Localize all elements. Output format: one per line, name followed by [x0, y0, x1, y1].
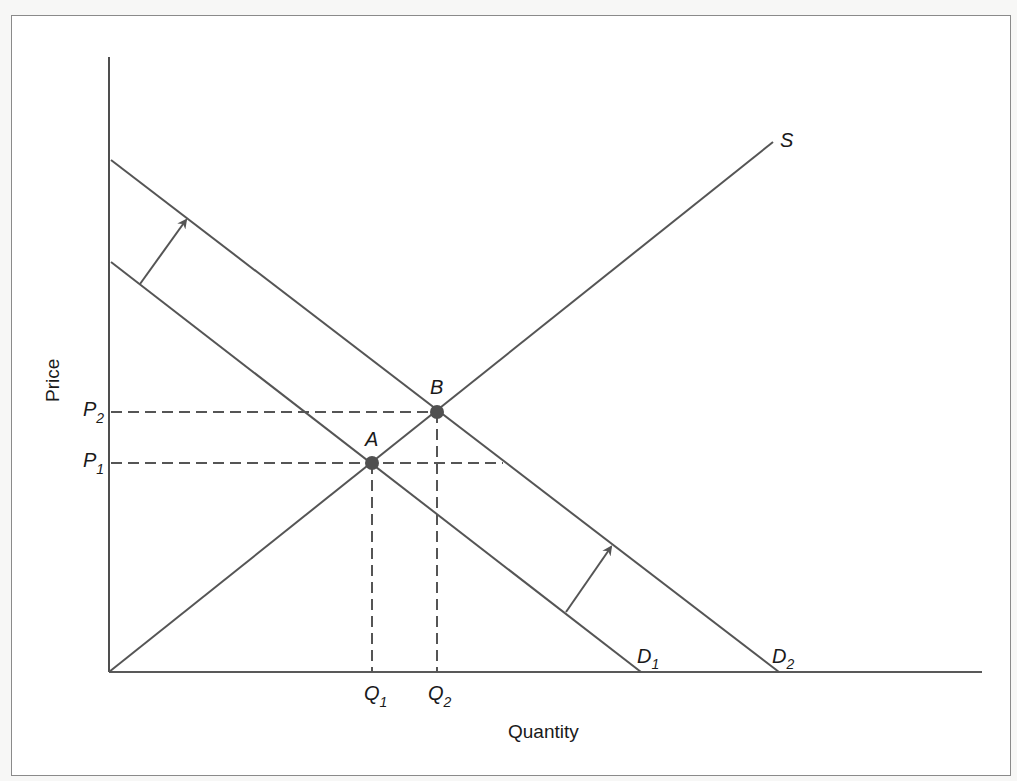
demand-d2-label: D2	[772, 645, 794, 672]
x-axis-title: Quantity	[508, 721, 579, 742]
p2-label: P2	[83, 398, 104, 426]
equilibrium-point-b	[430, 405, 444, 419]
point-a-label: A	[364, 428, 378, 450]
demand-shift-arrow-lower	[566, 547, 611, 612]
demand-shift-arrow-upper	[140, 220, 186, 284]
p1-label: P1	[83, 449, 104, 477]
supply-demand-diagram: S D1 D2 A B P2 P1 Q1 Q2 Quantity Price	[0, 0, 1017, 781]
supply-label: S	[780, 129, 794, 151]
demand-d1-label: D1	[637, 645, 659, 672]
demand-curve-d2	[111, 160, 779, 672]
q1-label: Q1	[364, 682, 387, 710]
point-b-label: B	[430, 376, 443, 398]
y-axis-title: Price	[42, 359, 63, 402]
equilibrium-point-a	[365, 456, 379, 470]
q2-label: Q2	[428, 682, 452, 710]
